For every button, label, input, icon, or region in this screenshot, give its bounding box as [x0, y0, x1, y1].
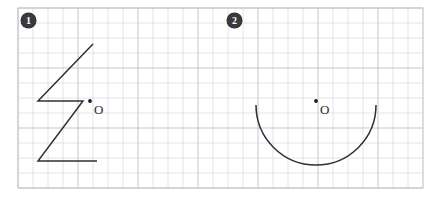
semicircle-arc	[256, 105, 376, 165]
geometry-figures-layer	[0, 0, 433, 207]
z-shaped-polyline	[38, 44, 97, 161]
problem-number-badge-2[interactable]: 2	[227, 13, 242, 28]
point-label-o-figure-2: O	[320, 103, 329, 116]
point-o-dot-figure-2	[314, 99, 318, 103]
problem-number-badge-1[interactable]: 1	[21, 13, 36, 28]
point-label-o-figure-1: O	[94, 103, 103, 116]
point-o-dot-figure-1	[88, 99, 92, 103]
worksheet-canvas: 1 2 O O	[0, 0, 433, 207]
